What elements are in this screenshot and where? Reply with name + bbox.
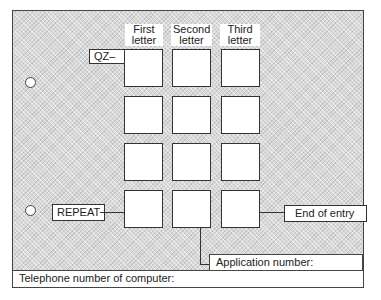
header-second-line2: letter — [173, 35, 210, 46]
end-of-entry-key-box[interactable] — [221, 190, 260, 228]
repeat-label: REPEAT — [52, 204, 105, 221]
header-first-line2: letter — [127, 35, 161, 46]
letter-box-r3-c1[interactable] — [124, 143, 163, 181]
letter-box-r1-c1[interactable] — [124, 49, 163, 87]
letter-box-r1-c3[interactable] — [221, 49, 260, 87]
end-of-entry-connector — [260, 212, 284, 213]
header-third-line2: letter — [222, 35, 258, 46]
punch-hole-bottom — [25, 205, 36, 216]
telephone-number-field[interactable]: Telephone number of computer: — [12, 270, 364, 288]
header-third-letter: Third letter — [220, 24, 260, 46]
end-of-entry-label: End of entry — [284, 205, 367, 222]
letter-box-r2-c1[interactable] — [124, 96, 163, 134]
prefix-label: QZ– — [89, 49, 126, 64]
letter-box-r3-c2[interactable] — [172, 143, 211, 181]
repeat-connector — [100, 212, 124, 213]
letter-box-r2-c3[interactable] — [221, 96, 260, 134]
letter-box-r3-c3[interactable] — [221, 143, 260, 181]
repeat-key-box[interactable] — [124, 190, 163, 228]
application-connector-vertical — [200, 227, 201, 265]
letter-box-r2-c2[interactable] — [172, 96, 211, 134]
application-number-key-box[interactable] — [172, 190, 211, 228]
letter-box-r1-c2[interactable] — [172, 49, 211, 87]
header-second-letter: Second letter — [171, 24, 212, 46]
header-first-letter: First letter — [125, 24, 163, 46]
punch-hole-top — [25, 77, 36, 88]
